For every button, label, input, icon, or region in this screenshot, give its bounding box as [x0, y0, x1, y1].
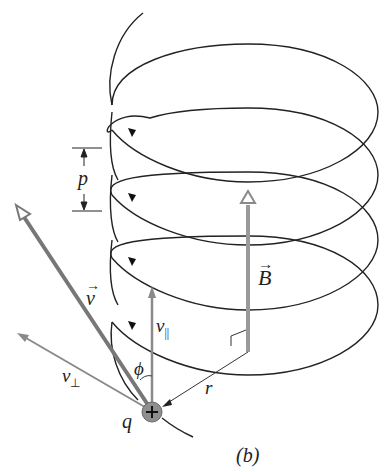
magnetic-field-arrow	[241, 191, 255, 352]
pitch-label: p	[78, 167, 88, 190]
helix-diagram	[0, 0, 392, 472]
v-parallel-arrow	[148, 286, 156, 410]
right-angle-marker	[231, 330, 246, 346]
velocity-label: v	[86, 287, 95, 310]
charged-particle	[142, 402, 162, 422]
angle-label: ϕ	[134, 358, 144, 380]
v-perp-arrow	[17, 333, 150, 410]
helix-path	[107, 13, 378, 437]
direction-arrowheads	[128, 128, 136, 330]
charge-label: q	[122, 410, 132, 433]
v-perp-label: v⊥	[62, 365, 80, 391]
radius-label: r	[205, 377, 212, 399]
magnetic-field-label: B	[258, 265, 271, 291]
v-parallel-label: v||	[156, 315, 169, 341]
velocity-arrow	[16, 205, 150, 408]
caption: (b)	[236, 444, 259, 467]
